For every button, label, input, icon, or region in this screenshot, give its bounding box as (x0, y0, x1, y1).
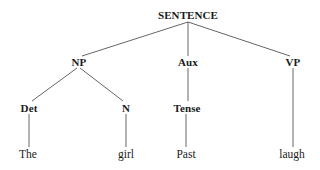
leaf-laugh: laugh (279, 149, 305, 161)
node-np: NP (72, 57, 87, 68)
edge-sentence-np (82, 22, 188, 56)
leaf-the: The (19, 149, 37, 161)
edge-sentence-vp (188, 22, 290, 56)
edge-np-n (80, 68, 123, 101)
node-aux: Aux (178, 57, 198, 68)
node-n: N (122, 103, 130, 114)
node-tense: Tense (174, 103, 201, 114)
node-det: Det (21, 103, 38, 114)
tree-edges (0, 0, 320, 170)
edge-np-det (32, 68, 77, 101)
leaf-past: Past (176, 149, 195, 161)
leaf-girl: girl (118, 149, 134, 161)
node-sentence: SENTENCE (158, 10, 218, 21)
node-vp: VP (286, 57, 301, 68)
